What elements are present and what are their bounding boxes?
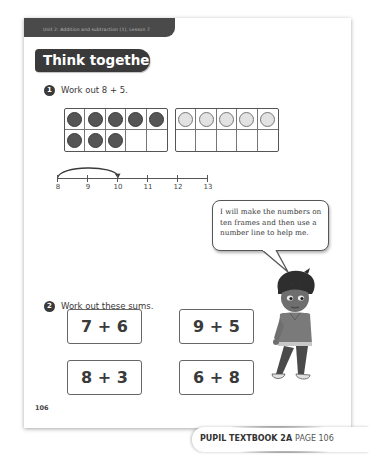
tick (147, 175, 148, 182)
tick-label: 11 (144, 183, 153, 191)
textbook-page: Unit 2: Addition and subtraction (1), Le… (24, 18, 351, 428)
empty-cell (126, 130, 146, 151)
ten-frame-second (175, 108, 279, 152)
footer-tab: PUPIL TEXTBOOK 2APAGE 106 (192, 427, 369, 452)
sum-box: 8 + 3 (67, 360, 142, 395)
speech-bubble-text: I will make the numbers on ten frames an… (220, 207, 328, 239)
footer-text: PUPIL TEXTBOOK 2APAGE 106 (200, 434, 334, 443)
counter-dark (128, 112, 143, 127)
sum-box: 6 + 8 (179, 360, 254, 395)
question-number-badge: 2 (44, 301, 55, 312)
sum-box: 9 + 5 (179, 309, 254, 344)
boy-character-illustration (264, 268, 326, 388)
question-number-badge: 1 (44, 85, 55, 96)
counter-light (219, 112, 234, 127)
ten-frame-first (64, 108, 168, 152)
tick (207, 175, 208, 182)
counter-dark (149, 112, 164, 127)
counter-light (199, 112, 214, 127)
unit-label: Unit 2: Addition and subtraction (1), Le… (43, 27, 150, 32)
number-line-axis (57, 178, 207, 179)
tick (87, 175, 88, 182)
section-banner: Think together (35, 49, 150, 72)
counter-dark (88, 112, 103, 127)
counter-dark (88, 133, 103, 148)
empty-cell (176, 130, 196, 151)
tick (177, 175, 178, 182)
tick-label: 9 (86, 183, 90, 191)
counter-dark (67, 112, 82, 127)
tab-shadow (232, 451, 337, 453)
book-title: PUPIL TEXTBOOK 2A (200, 434, 292, 443)
empty-cell (217, 130, 237, 151)
tick-label: 12 (174, 183, 183, 191)
counter-light (178, 112, 193, 127)
tick-label: 10 (114, 183, 123, 191)
empty-cell (147, 130, 167, 151)
counter-light (239, 112, 254, 127)
counter-dark (108, 133, 123, 148)
counter-dark (67, 133, 82, 148)
empty-cell (237, 130, 257, 151)
speech-bubble: I will make the numbers on ten frames an… (212, 200, 329, 251)
section-title: Think together (43, 52, 156, 68)
empty-cell (196, 130, 216, 151)
unit-header-bar: Unit 2: Addition and subtraction (1), Le… (24, 18, 175, 37)
tick-label: 13 (204, 183, 213, 191)
footer-page: PAGE 106 (295, 434, 334, 443)
page-number: 106 (35, 404, 49, 412)
number-line: 8 9 10 11 12 13 (56, 166, 216, 206)
counter-light (260, 112, 275, 127)
tick (57, 175, 58, 182)
tick-label: 8 (56, 183, 60, 191)
empty-cell (258, 130, 278, 151)
question-prompt: Work out 8 + 5. (61, 85, 128, 95)
sum-box: 7 + 6 (67, 309, 142, 344)
counter-dark (108, 112, 123, 127)
tab-shadow (222, 426, 332, 428)
tick (117, 175, 118, 182)
